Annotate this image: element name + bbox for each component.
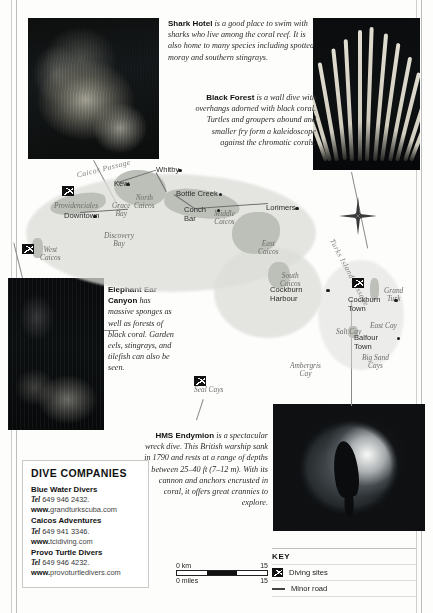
diving-site-icon[interactable] xyxy=(62,186,74,196)
scale-km-label: 0 km xyxy=(176,562,191,569)
www-prefix: www. xyxy=(31,505,50,514)
caption-body-hms-endymion: is a spectacular wreck dive. This Britis… xyxy=(144,431,268,507)
www-prefix: www. xyxy=(31,568,50,577)
dive-company-entry: Caicos AdventuresTel 649 941 3346.www.tc… xyxy=(31,516,140,546)
map-town-label[interactable]: Lorimers xyxy=(266,204,296,213)
map-island-label: North Caicos xyxy=(134,194,155,211)
map-town-dot xyxy=(93,215,96,218)
map-town-label[interactable]: Bottle Creek xyxy=(176,190,218,199)
photo-shark-hotel-reef xyxy=(28,18,159,159)
scale-bar-graphic xyxy=(176,570,268,576)
dive-company-name: Provo Turtle Divers xyxy=(31,548,140,558)
map-island-label: East Caicos xyxy=(258,240,279,257)
scale-miles-value: 15 xyxy=(260,577,268,584)
caption-title-shark-hotel: Shark Hotel xyxy=(168,19,212,28)
compass-rose-icon xyxy=(338,196,378,236)
map-island-label: Grace Bay xyxy=(112,202,130,219)
map-bank-south xyxy=(214,246,322,338)
key-label-diving-sites: Diving sites xyxy=(289,568,328,577)
dive-company-entry: Blue Water DiversTel 649 946 2432.www.gr… xyxy=(31,485,140,515)
tel-label: Tel xyxy=(31,495,40,504)
map-turks-and-caicos[interactable]: ProvidencialesWest CaicosNorth CaicosMid… xyxy=(18,150,416,410)
www-prefix: www. xyxy=(31,537,50,546)
caption-black-forest: Black Forest is a wall dive with overhan… xyxy=(190,92,316,148)
tel-label: Tel xyxy=(31,527,40,536)
caption-hms-endymion: HMS Endymion is a spectacular wreck dive… xyxy=(144,430,268,508)
diving-site-icon[interactable] xyxy=(352,278,364,288)
map-island-label: Ambergris Cay xyxy=(290,362,321,379)
key-row-minor-road: Minor road xyxy=(272,580,416,597)
minor-road-icon xyxy=(272,588,285,590)
map-bank-turks xyxy=(318,260,404,370)
key-row-diving-sites: Diving sites xyxy=(272,564,416,580)
map-island-label: East Cay xyxy=(370,322,397,330)
tel-label: Tel xyxy=(31,558,40,567)
map-town-dot xyxy=(126,183,129,186)
map-key-panel: KEY Diving sites Minor road xyxy=(272,548,416,597)
dive-company-name: Caicos Adventures xyxy=(31,516,140,526)
dive-company-website[interactable]: www.provoturtledivers.com xyxy=(31,568,140,578)
dive-companies-heading: DIVE COMPANIES xyxy=(31,467,140,479)
dive-company-website[interactable]: www.grandturkscuba.com xyxy=(31,505,140,515)
map-town-label[interactable]: Whitby xyxy=(156,166,179,175)
map-island-label: Providenciales xyxy=(54,202,98,210)
caption-title-hms-endymion: HMS Endymion xyxy=(155,431,214,440)
map-island-label: Seal Cays xyxy=(194,386,223,394)
scale-km-value: 15 xyxy=(260,562,268,569)
dive-companies-panel: DIVE COMPANIES Blue Water DiversTel 649 … xyxy=(22,460,149,588)
sea-rod-shape xyxy=(365,27,374,161)
photo-black-forest-sea-rods xyxy=(313,18,420,170)
map-island-label: Big Sand Cays xyxy=(362,354,389,371)
dive-company-telephone: Tel 649 941 3346. xyxy=(31,527,140,537)
dive-company-website[interactable]: www.tcidiving.com xyxy=(31,537,140,547)
map-town-dot xyxy=(394,299,397,302)
dive-company-name: Blue Water Divers xyxy=(31,485,140,495)
map-town-label[interactable]: Balfour Town xyxy=(354,334,378,351)
scale-miles-label: 0 miles xyxy=(176,577,198,584)
diving-site-icon xyxy=(272,568,283,577)
map-town-label[interactable]: Conch Bar xyxy=(184,206,206,223)
dive-company-entry: Provo Turtle DiversTel 649 946 4232.www.… xyxy=(31,548,140,578)
photo-hms-endymion-diver xyxy=(273,404,425,531)
map-town-label[interactable]: Cockburn Harbour xyxy=(270,286,303,303)
map-island-label: Middle Caicos xyxy=(214,210,235,227)
diving-site-icon[interactable] xyxy=(194,376,206,386)
map-island-label: West Caicos xyxy=(40,246,61,263)
caption-shark-hotel: Shark Hotel is a good place to swim with… xyxy=(168,18,320,63)
caption-title-black-forest: Black Forest xyxy=(206,93,254,102)
map-scale-bar: 0 km 15 0 miles 15 xyxy=(176,562,268,584)
key-heading: KEY xyxy=(272,552,416,561)
key-label-minor-road: Minor road xyxy=(291,584,327,593)
sea-rod-shape xyxy=(344,39,354,161)
guidebook-page: Shark Hotel is a good place to swim with… xyxy=(0,0,433,613)
dive-company-telephone: Tel 649 946 2432. xyxy=(31,495,140,505)
dive-company-telephone: Tel 649 946 4232. xyxy=(31,558,140,568)
map-town-dot xyxy=(295,207,298,210)
diving-site-icon[interactable] xyxy=(22,244,34,254)
map-island-label: Discovery Bay xyxy=(104,232,134,249)
sea-rod-shape xyxy=(358,30,362,161)
